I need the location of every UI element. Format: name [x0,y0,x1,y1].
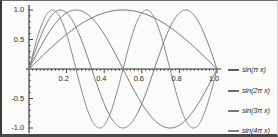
plot-area: 0.20.40.60.81.0 1.00.5-0.5-1.0 [2,1,224,135]
x-tick-label: 0.2 [59,74,69,83]
x-tick-label: 0.6 [134,74,144,83]
legend-item-label: sin(3π x) [242,106,270,115]
y-tick-label: 0.5 [2,35,24,44]
curve-series-1 [29,10,217,69]
figure-frame: 0.20.40.60.81.0 1.00.5-0.5-1.0 sin(π x)s… [0,0,278,137]
legend-line-swatch-icon [228,90,239,92]
legend-line-swatch-icon [228,110,239,112]
sine-curves-plot [2,1,224,135]
legend-line-swatch-icon [228,130,239,132]
legend-item[interactable]: sin(3π x) [228,106,270,115]
legend-item[interactable]: sin(π x) [228,65,266,74]
y-tick-label: 1.0 [2,5,24,14]
y-tick-label: -1.0 [2,123,24,132]
legend-item-label: sin(2π x) [242,86,270,95]
legend-item-label: sin(4π x) [242,126,270,135]
legend-item[interactable]: sin(2π x) [228,86,270,95]
legend: sin(π x)sin(2π x)sin(3π x)sin(4π x) [228,1,278,137]
legend-line-swatch-icon [228,69,239,71]
legend-item[interactable]: sin(4π x) [228,126,270,135]
legend-item-label: sin(π x) [242,65,266,74]
x-tick-label: 1.0 [209,74,219,83]
x-tick-label: 0.4 [96,74,106,83]
y-tick-label: -0.5 [2,94,24,103]
x-tick-label: 0.8 [171,74,181,83]
